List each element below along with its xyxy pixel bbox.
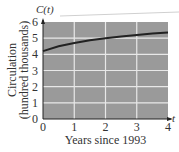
x-tick-label: 4 xyxy=(165,120,171,134)
x-axis-name: t xyxy=(172,112,175,124)
y-axis-label: Circulation (hundred thousands) xyxy=(0,20,36,120)
x-axis-label: Years since 1993 xyxy=(43,133,168,148)
top-rule xyxy=(60,12,179,16)
x-tick-label: 2 xyxy=(103,120,109,134)
x-tick-label: 3 xyxy=(134,120,140,134)
x-tick-label: 1 xyxy=(71,120,77,134)
chart: 012345601234 Circulation (hundred thousa… xyxy=(0,0,179,152)
x-tick-label: 0 xyxy=(40,120,46,134)
y-axis-arrow-icon xyxy=(41,18,45,24)
y-axis-name: C(t) xyxy=(36,3,54,15)
y-axis-label-line2: (hundred thousands) xyxy=(18,21,30,119)
